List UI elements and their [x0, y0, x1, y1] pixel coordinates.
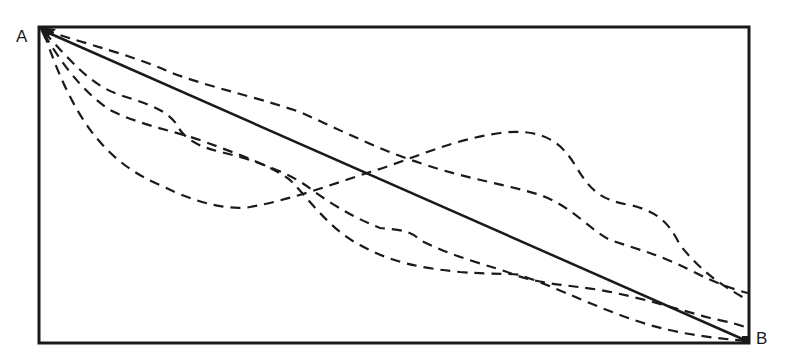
point-b-label: B [756, 330, 767, 347]
upper-dashed-path [44, 30, 748, 293]
path-diagram [0, 0, 788, 362]
point-a-label: A [16, 28, 27, 45]
straight-path [42, 30, 747, 341]
